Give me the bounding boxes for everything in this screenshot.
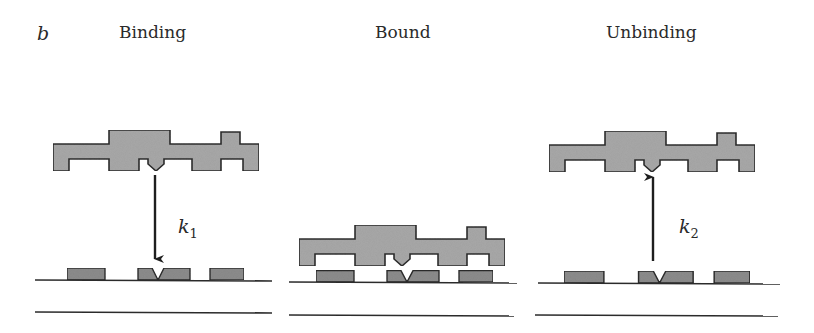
protein-shape (299, 225, 505, 266)
diagram-canvas (0, 0, 814, 333)
surface-line (35, 280, 272, 281)
surface-line (538, 283, 780, 284)
surface-sites (316, 271, 493, 282)
panel-unbinding (535, 131, 780, 316)
surface-line (289, 282, 517, 283)
surface-sites (564, 271, 750, 283)
panel-binding (35, 130, 272, 313)
protein-shape (549, 131, 755, 172)
baseline (35, 312, 272, 313)
panel-bound (289, 225, 517, 316)
baseline (535, 315, 778, 316)
surface-sites (67, 268, 244, 280)
protein-shape (53, 130, 259, 171)
baseline (289, 315, 514, 316)
